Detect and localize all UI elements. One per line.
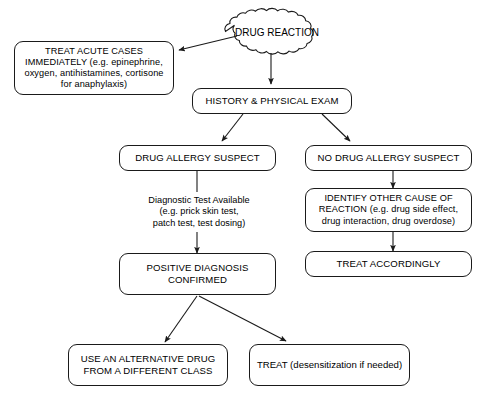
node-identify-other-cause[interactable]: IDENTIFY OTHER CAUSE OF REACTION (e.g. d… [305, 188, 472, 232]
edge-history-to-no-allergy [322, 114, 350, 141]
node-use-alternative-drug[interactable]: USE AN ALTERNATIVE DRUG FROM A DIFFERENT… [68, 344, 228, 386]
node-label-treat-accordingly: TREAT ACCORDINGLY [332, 258, 444, 270]
node-treat-accordingly[interactable]: TREAT ACCORDINGLY [305, 251, 472, 277]
node-label-drug-allergy-suspect: DRUG ALLERGY SUSPECT [131, 152, 263, 164]
node-label-use-alternative-drug: USE AN ALTERNATIVE DRUG FROM A DIFFERENT… [77, 353, 220, 376]
node-no-drug-allergy-suspect[interactable]: NO DRUG ALLERGY SUSPECT [305, 145, 472, 171]
node-label-treat-acute-cases: TREAT ACUTE CASES IMMEDIATELY (e.g. epin… [20, 46, 167, 91]
node-drug-reaction[interactable]: DRUG REACTION [218, 8, 336, 56]
node-label-diagnostic-test-available: Diagnostic Test Available (e.g. prick sk… [144, 195, 253, 229]
node-positive-diagnosis-confirmed[interactable]: POSITIVE DIAGNOSIS CONFIRMED [119, 253, 276, 295]
node-treat-acute-cases[interactable]: TREAT ACUTE CASES IMMEDIATELY (e.g. epin… [14, 41, 174, 95]
node-label-treat-desensitization: TREAT (desensitization if needed) [253, 359, 406, 371]
node-label-no-drug-allergy-suspect: NO DRUG ALLERGY SUSPECT [314, 152, 464, 164]
node-treat-desensitization[interactable]: TREAT (desensitization if needed) [249, 344, 410, 386]
node-label-identify-other-cause: IDENTIFY OTHER CAUSE OF REACTION (e.g. d… [315, 193, 462, 227]
flowchart-diagram: DRUG REACTION TREAT ACUTE CASES IMMEDIAT… [0, 0, 484, 405]
edge-positive-to-desensitization [199, 296, 286, 341]
edge-history-to-allergy [222, 114, 243, 141]
edge-positive-to-alternative [165, 296, 197, 342]
node-diagnostic-test-available: Diagnostic Test Available (e.g. prick sk… [129, 192, 269, 232]
node-label-positive-diagnosis-confirmed: POSITIVE DIAGNOSIS CONFIRMED [142, 262, 252, 285]
node-history-physical-exam[interactable]: HISTORY & PHYSICAL EXAM [192, 88, 352, 114]
node-label-drug-reaction: DRUG REACTION [218, 8, 336, 56]
node-label-history-physical-exam: HISTORY & PHYSICAL EXAM [201, 95, 342, 107]
node-drug-allergy-suspect[interactable]: DRUG ALLERGY SUSPECT [119, 145, 276, 171]
